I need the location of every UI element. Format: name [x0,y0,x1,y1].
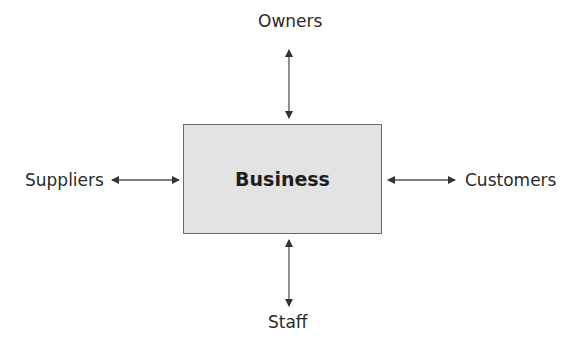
node-customers: Customers [465,170,556,190]
node-staff: Staff [268,312,308,332]
business-box: Business [183,124,382,234]
node-owners: Owners [258,11,322,31]
node-suppliers: Suppliers [25,170,104,190]
business-label: Business [235,168,330,190]
